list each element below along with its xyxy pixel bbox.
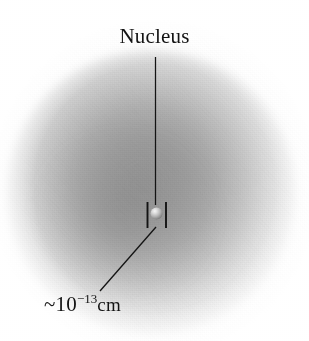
scale-text-label: ~10−13cm	[44, 292, 121, 315]
scale-unit: cm	[97, 294, 121, 315]
figure-line-art	[0, 0, 309, 341]
nucleus-figure: Nucleus ~10−13cm	[0, 0, 309, 341]
scale-prefix: ~10	[44, 292, 77, 316]
scale-exponent: −13	[77, 291, 97, 306]
nucleus-sphere	[151, 208, 163, 220]
scale-leader-line	[100, 227, 156, 291]
nucleus-text-label: Nucleus	[0, 26, 309, 47]
